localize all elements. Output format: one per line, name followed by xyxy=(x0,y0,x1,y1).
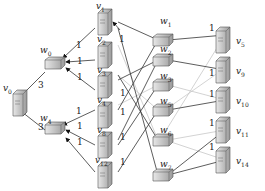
label-v14: v14 xyxy=(236,157,249,169)
label-v0: v0 xyxy=(3,84,12,96)
router-w0-icon xyxy=(45,57,65,69)
label-v10: v10 xyxy=(236,97,249,109)
label-v12: v12 xyxy=(95,156,108,168)
label-w2: w2 xyxy=(160,45,172,57)
svg-text:1: 1 xyxy=(209,89,215,99)
svg-text:1: 1 xyxy=(120,157,126,167)
label-v1: v1 xyxy=(96,2,105,14)
label-v5: v5 xyxy=(236,37,245,49)
svg-text:1: 1 xyxy=(209,68,215,78)
svg-text:1: 1 xyxy=(77,72,83,82)
label-v4: v4 xyxy=(97,96,106,108)
label-w5: w5 xyxy=(160,97,172,109)
svg-text:1: 1 xyxy=(209,118,215,128)
svg-text:1: 1 xyxy=(77,137,83,147)
server-v0-icon xyxy=(13,90,27,116)
svg-text:1: 1 xyxy=(120,132,126,142)
label-v11: v11 xyxy=(236,127,249,139)
label-v8: v8 xyxy=(97,126,106,138)
svg-text:1: 1 xyxy=(119,34,125,44)
server-v5-icon xyxy=(216,27,230,53)
label-w4: w4 xyxy=(40,114,52,126)
label-w1: w1 xyxy=(160,17,172,29)
server-v14-icon xyxy=(216,147,230,173)
svg-text:1: 1 xyxy=(120,107,126,117)
svg-text:1: 1 xyxy=(76,40,82,50)
dark-edges xyxy=(22,22,225,175)
server-v11-icon xyxy=(216,117,230,143)
label-w7: w7 xyxy=(160,160,172,172)
svg-text:1: 1 xyxy=(209,23,215,33)
network-diagram: 3 3 1 1 1 1 1 1 1 1 1 1 1 1 1 1 1 1 xyxy=(0,0,265,191)
svg-text:1: 1 xyxy=(77,56,83,66)
label-v9: v9 xyxy=(236,67,245,79)
svg-text:1: 1 xyxy=(76,106,82,116)
label-w3: w3 xyxy=(160,72,172,84)
svg-text:1: 1 xyxy=(120,88,126,98)
label-w0: w0 xyxy=(40,46,52,58)
label-w6: w6 xyxy=(160,126,172,138)
server-v9-icon xyxy=(216,57,230,83)
label-v3: v3 xyxy=(97,66,106,78)
svg-text:1: 1 xyxy=(209,142,215,152)
server-v10-icon xyxy=(216,87,230,113)
svg-text:1: 1 xyxy=(77,121,83,131)
svg-text:3: 3 xyxy=(38,80,44,90)
label-v2: v2 xyxy=(97,35,106,47)
